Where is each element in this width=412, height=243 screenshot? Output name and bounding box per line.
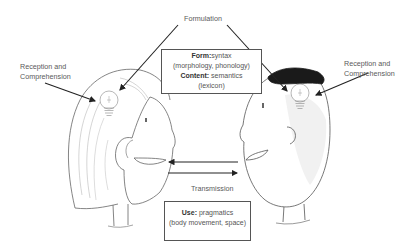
content-value: semantics <box>209 72 242 79</box>
transmission-label: Transmission <box>191 184 233 194</box>
form-content-box: Form:syntax (morphology, phonology) Cont… <box>161 49 262 94</box>
content-label: Content: <box>180 72 209 79</box>
reception-right-label: Reception and Comprehension <box>344 59 395 78</box>
form-value: syntax <box>211 52 231 59</box>
reception-left-label: Reception and Comprehension <box>20 62 71 81</box>
use-line: Use: pragmatics <box>165 208 250 218</box>
content-detail: (lexicon) <box>162 81 261 91</box>
left-lightbulb-icon <box>100 91 118 116</box>
reception-left-line-2: Comprehension <box>20 72 71 82</box>
left-person-figure <box>68 69 175 227</box>
form-label: Form: <box>191 52 211 59</box>
reception-left-arrow <box>45 83 95 101</box>
form-detail: (morphology, phonology) <box>162 61 261 71</box>
use-box: Use: pragmatics (body movement, space) <box>164 201 251 241</box>
reception-right-line-2: Comprehension <box>344 69 395 79</box>
form-line: Form:syntax <box>162 51 261 61</box>
content-line: Content: semantics <box>162 71 261 81</box>
use-label: Use: <box>182 209 197 216</box>
formulation-label: Formulation <box>184 14 222 24</box>
reception-right-line-1: Reception and <box>344 59 395 69</box>
use-detail: (body movement, space) <box>165 218 250 228</box>
reception-left-line-1: Reception and <box>20 62 71 72</box>
use-value: pragmatics <box>197 209 233 216</box>
